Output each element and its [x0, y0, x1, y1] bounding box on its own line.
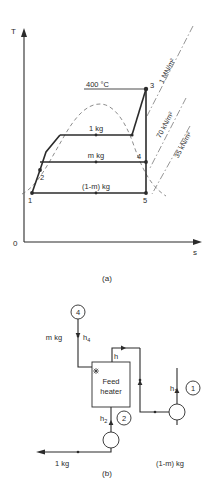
- output-arrow-1kg: [36, 450, 45, 455]
- tick-dot-return: [139, 379, 142, 382]
- flow-label-mkg: m kg: [46, 333, 62, 342]
- heater-outlet-arrow: [109, 420, 114, 425]
- svg-text:1 MN/m²: 1 MN/m²: [158, 57, 177, 85]
- node-label-2: 2: [122, 414, 126, 423]
- state-label-1: 1: [28, 196, 32, 205]
- process-2-feed: [40, 135, 60, 170]
- pressure-label-low: 35 kN/m²: [173, 130, 193, 159]
- output-line-1kg: [42, 448, 111, 452]
- panel-b-caption: (b): [102, 469, 112, 478]
- svg-text:h: h: [114, 352, 118, 361]
- midpoint-dot-1kg: [95, 134, 98, 137]
- process-1-2: [32, 170, 40, 193]
- temperature-label: 400 °C: [86, 80, 110, 89]
- point-dot-4: [144, 160, 148, 164]
- mass-label-1kg: 1 kg: [89, 124, 103, 133]
- tick-dot-bottom-right: [154, 411, 157, 414]
- svg-text:h2: h2: [100, 414, 107, 424]
- panel-a-caption: (a): [102, 274, 112, 283]
- panel-b-schematic: 4 m kg h4 Feed heater h 2 h2 1 kg 1 h1: [0, 292, 214, 478]
- enthalpy-label-hx: h: [114, 352, 118, 361]
- bled-steam-line: [78, 319, 92, 367]
- pump-circle-right: [169, 404, 185, 420]
- mass-label-mkg: m kg: [88, 151, 104, 160]
- pressure-label-mid: 70 kN/m²: [155, 110, 175, 139]
- state-label-4: 4: [137, 152, 141, 161]
- enthalpy-label-h2: h2: [100, 414, 107, 424]
- cycle-path-group: [32, 89, 146, 193]
- svg-text:35 kN/m²: 35 kN/m²: [173, 130, 193, 159]
- process-superheat: [132, 89, 146, 135]
- point-dot-2: [38, 168, 42, 172]
- x-axis-label: s: [193, 248, 197, 257]
- midpoint-dot-1mkg: [95, 192, 98, 195]
- state-label-2: 2: [40, 173, 44, 182]
- feed-heater-label-line2: heater: [100, 387, 122, 396]
- tick-dot-bled: [77, 335, 80, 338]
- point-dot-sat-vapour: [130, 133, 133, 136]
- panel-a-ts-diagram: T s 0 1 MN/m² 70 kN/m² 35 kN/m² 400 °C: [0, 0, 214, 292]
- feedwater-inlet-arrow: [121, 346, 126, 351]
- state-label-5: 5: [143, 196, 147, 205]
- pump-circle-left: [103, 432, 119, 448]
- x-axis-arrow: [193, 239, 202, 245]
- point-dot-5: [144, 191, 148, 195]
- y-axis-label: T: [11, 27, 16, 36]
- figure-root: T s 0 1 MN/m² 70 kN/m² 35 kN/m² 400 °C: [0, 0, 214, 478]
- svg-text:70 kN/m²: 70 kN/m²: [155, 110, 175, 139]
- node-label-4: 4: [76, 308, 80, 317]
- svg-text:h4: h4: [83, 333, 90, 343]
- return-line-right: [140, 348, 176, 412]
- state-label-3: 3: [150, 81, 154, 90]
- feed-heater-label-line1: Feed: [102, 377, 119, 386]
- pressure-label-high: 1 MN/m²: [158, 57, 177, 85]
- mass-label-1mkg: (1-m) kg: [82, 182, 110, 191]
- point-dot-1: [30, 191, 34, 195]
- tick-dot-output: [77, 451, 80, 454]
- origin-label: 0: [13, 239, 18, 248]
- node-label-1: 1: [191, 384, 195, 393]
- enthalpy-label-h4: h4: [83, 333, 90, 343]
- point-dot-3: [144, 87, 148, 91]
- y-axis-arrow: [21, 28, 27, 37]
- flow-label-1kg: 1 kg: [55, 459, 69, 468]
- flow-label-1mkg: (1-m) kg: [156, 459, 184, 468]
- midpoint-dot-mkg: [95, 161, 98, 164]
- mixing-star-icon: [93, 368, 99, 374]
